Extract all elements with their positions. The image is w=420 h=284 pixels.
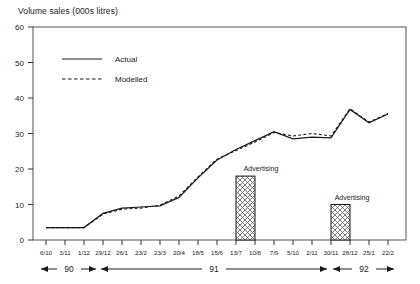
x-tick-label-4: 26/1 [116,249,129,256]
x-tick-label-8: 18/5 [192,249,205,256]
x-tick-label-5: 23/2 [135,249,148,256]
y-tick-label-60: 60 [15,23,24,32]
x-tick-label-14: 2/11 [306,249,318,256]
x-tick-label-16: 28/12 [342,249,358,256]
x-tick-label-18: 22/2 [382,249,395,256]
y-tick-label-0: 0 [20,236,25,245]
legend-label-actual: Actual [115,55,137,64]
year-span-90: 90 [41,262,96,276]
x-tick-label-2: 1/12 [78,249,91,256]
x-tick-label-15: 30/11 [323,249,339,256]
y-tick-label-20: 20 [15,165,24,174]
year-label-91: 91 [209,264,219,274]
x-tick-label-13: 5/10 [287,249,300,256]
advertising-label-first: Advertising [244,165,279,173]
x-tick-label-17: 25/1 [363,249,376,256]
chart-svg: 0 10 20 30 40 50 60 [0,0,420,284]
y-tick-label-30: 30 [15,130,24,139]
year-span-92: 92 [333,262,394,276]
x-tick-label-10: 13/7 [230,249,243,256]
x-tick-label-3: 29/12 [95,249,111,256]
x-tick-label-0: 6/10 [40,249,53,256]
y-tick-label-50: 50 [15,59,24,68]
x-axis-tick-labels: 6/10 3/11 1/12 29/12 26/1 23/2 23/3 20/4… [40,249,395,256]
year-label-92: 92 [359,264,369,274]
y-tick-label-10: 10 [15,201,24,210]
x-tick-label-9: 15/6 [211,249,224,256]
y-tick-label-40: 40 [15,94,24,103]
x-tick-label-1: 3/11 [59,249,71,256]
x-tick-label-6: 23/3 [154,249,167,256]
y-axis-tick-labels: 0 10 20 30 40 50 60 [15,23,24,245]
chart-container: Volume sales (000s litres) 0 10 20 3 [0,0,420,284]
advertising-label-second: Advertising [335,194,370,202]
chart-legend: Actual Modelled [62,55,147,84]
advertising-bar-second [331,205,350,241]
x-tick-label-12: 7/9 [270,249,279,256]
year-span-91: 91 [101,262,327,276]
advertising-bar-first [236,176,255,240]
legend-label-modelled: Modelled [115,75,147,84]
x-tick-label-11: 10/8 [249,249,262,256]
x-tick-label-7: 20/4 [173,249,186,256]
x-axis-ticks [46,240,388,245]
year-label-90: 90 [64,264,74,274]
y-axis-ticks [28,27,33,240]
